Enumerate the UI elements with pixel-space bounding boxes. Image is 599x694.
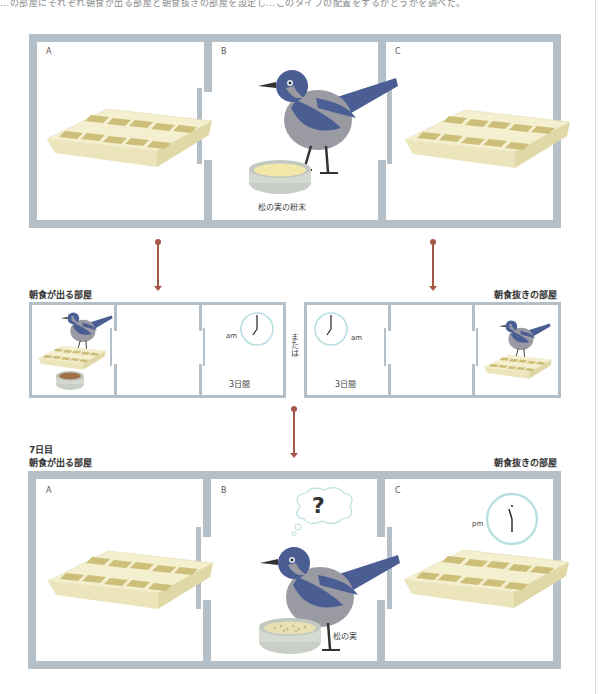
heading-no-breakfast-room: 朝食抜きの部屋 bbox=[494, 288, 557, 301]
or-label: または bbox=[288, 333, 299, 357]
arrow-down bbox=[157, 242, 159, 289]
ice-cube-tray-icon bbox=[48, 551, 213, 611]
wall bbox=[388, 302, 391, 331]
arrow-down bbox=[432, 242, 434, 289]
ice-cube-tray-icon bbox=[404, 550, 569, 610]
bowl-powder-icon bbox=[247, 157, 313, 197]
wall bbox=[472, 364, 475, 398]
bowl-nuts-icon bbox=[257, 614, 323, 658]
wall bbox=[472, 302, 475, 331]
wall bbox=[114, 364, 117, 398]
ice-cube-tray-icon bbox=[484, 355, 554, 381]
door bbox=[384, 328, 386, 366]
room-label-c: C bbox=[395, 47, 401, 56]
wall bbox=[199, 364, 202, 398]
clock-label-pm: pm bbox=[472, 520, 483, 528]
heading-breakfast-room: 朝食が出る部屋 bbox=[29, 456, 92, 469]
top-caption: …の部屋にそれぞれ朝食が出る部屋と朝食抜きの部屋を設定し…このタイプの配置をする… bbox=[0, 0, 560, 9]
bowl-label: 松の実の粉末 bbox=[258, 201, 306, 212]
room-label-a: A bbox=[46, 47, 51, 56]
clock-icon bbox=[485, 492, 541, 548]
question-mark: ? bbox=[312, 493, 325, 518]
door bbox=[203, 328, 205, 366]
duration-label: 3日間 bbox=[229, 378, 250, 389]
wall bbox=[199, 302, 202, 331]
room-label-b: B bbox=[221, 47, 227, 56]
wall bbox=[377, 471, 385, 537]
clock-icon bbox=[240, 312, 280, 352]
page-edge bbox=[595, 0, 596, 694]
heading-breakfast-room: 朝食が出る部屋 bbox=[29, 288, 92, 301]
wall bbox=[204, 34, 212, 92]
wall bbox=[204, 160, 212, 228]
ice-cube-tray-icon bbox=[47, 109, 212, 169]
wall bbox=[203, 471, 211, 537]
clock-label-am: am bbox=[226, 332, 237, 340]
wall bbox=[388, 364, 391, 398]
heading-no-breakfast-room: 朝食抜きの部屋 bbox=[494, 456, 557, 469]
door bbox=[476, 328, 478, 366]
clock-label-am: am bbox=[351, 334, 362, 342]
room-label-a: A bbox=[46, 486, 51, 495]
clock-icon bbox=[314, 312, 354, 352]
arrow-down bbox=[293, 409, 295, 456]
ice-cube-tray-icon bbox=[405, 110, 570, 170]
room-label-c: C bbox=[395, 486, 401, 495]
duration-label: 3日間 bbox=[335, 378, 356, 389]
bowl-nuts-icon bbox=[55, 369, 85, 391]
day-label: 7日目 bbox=[29, 443, 53, 456]
bowl-label: 松の実 bbox=[333, 630, 357, 641]
room-label-b: B bbox=[221, 486, 227, 495]
